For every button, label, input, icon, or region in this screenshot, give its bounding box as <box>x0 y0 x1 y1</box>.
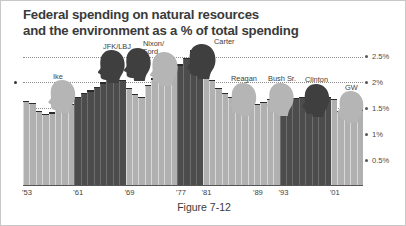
y-axis-tick-dot <box>365 107 368 110</box>
x-axis-label: '69 <box>125 188 135 197</box>
president-label: Bush Sr. <box>268 75 296 83</box>
x-axis-label: '89 <box>253 188 263 197</box>
x-axis-label: '61 <box>73 188 83 197</box>
figure-frame: Federal spending on natural resources an… <box>0 0 406 226</box>
chart-title-line-2: and the environment as a % of total spen… <box>23 23 323 39</box>
y-axis-label: 2.5% <box>372 52 389 61</box>
president-head-icon <box>336 90 365 123</box>
president-head-icon <box>47 79 77 113</box>
y-axis-label: 2% <box>372 78 383 87</box>
x-axis-label: '81 <box>202 188 212 197</box>
president-label: Clinton <box>305 76 328 84</box>
president-head-icon <box>228 82 258 116</box>
bar-top-edge <box>132 94 138 95</box>
bar-top-edge <box>36 111 42 112</box>
bar-top-edge <box>215 88 221 89</box>
plot-area: 0.5%1%1.5%2%2.5% '53'61'69'77'81'89'93'0… <box>23 41 363 186</box>
figure-caption: Figure 7-12 <box>1 201 406 213</box>
y-axis-left-marker <box>14 81 17 84</box>
x-axis-label: '01 <box>330 188 340 197</box>
president-head-icon <box>301 83 331 117</box>
y-axis-label: 0.5% <box>372 156 389 165</box>
president-label: GW <box>345 84 358 92</box>
bar-top-edge <box>209 80 215 81</box>
president-head-icon <box>266 82 295 116</box>
president-head-icon <box>186 43 217 79</box>
bar-top-edge <box>23 101 29 102</box>
chart-title-line-1: Federal spending on natural resources <box>23 7 323 23</box>
president-label: Reagan <box>231 75 257 83</box>
bar-top-edge <box>126 88 132 89</box>
president-head-icon <box>97 49 126 83</box>
y-axis-label: 1.5% <box>372 104 389 113</box>
y-axis-tick-dot <box>365 159 368 162</box>
y-axis-tick-dot <box>365 81 368 84</box>
bar-top-edge <box>29 103 35 104</box>
president-label-line-2: Ford <box>143 48 164 56</box>
x-axis-label: '53 <box>22 188 32 197</box>
y-axis-label: 1% <box>372 130 383 139</box>
y-axis-tick-dot <box>365 55 368 58</box>
y-axis-tick-dot <box>365 133 368 136</box>
president-label: Ike <box>53 73 63 81</box>
president-label: Nixon/Ford <box>143 40 164 57</box>
x-axis-baseline <box>23 185 363 187</box>
chart-title: Federal spending on natural resources an… <box>23 7 323 38</box>
x-axis-label: '77 <box>176 188 186 197</box>
x-axis-label: '93 <box>279 188 289 197</box>
president-label: Carter <box>214 38 235 46</box>
